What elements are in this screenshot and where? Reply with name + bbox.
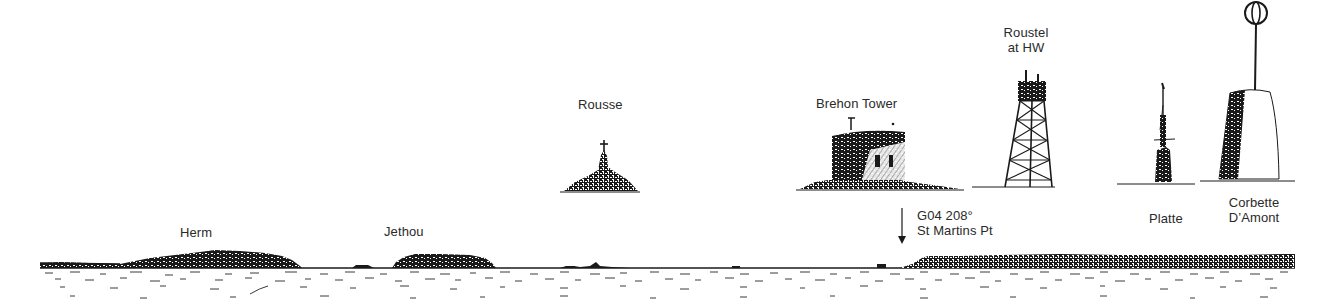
- label-roustel-line1: Roustel: [998, 25, 1054, 40]
- platte-sketch: [1117, 83, 1195, 184]
- label-platte: Platte: [1149, 211, 1183, 226]
- label-corbette-line1: Corbette: [1220, 195, 1288, 210]
- sketch-artwork: [0, 0, 1325, 302]
- coastal-view-diagram: Herm Jethou Rousse Brehon Tower Roustel …: [0, 0, 1325, 302]
- roustel-tower-sketch: [972, 70, 1055, 187]
- st-martins-point-headland: [900, 254, 1295, 268]
- islet-shape: [352, 265, 374, 268]
- herm-island-shape: [40, 250, 302, 268]
- label-jethou: Jethou: [384, 224, 424, 239]
- label-corbette-line2: D’Amont: [1220, 210, 1288, 225]
- label-bearing-line1: G04 208°: [917, 208, 993, 223]
- label-herm: Herm: [180, 225, 212, 240]
- label-bearing-line2: St Martins Pt: [917, 223, 993, 238]
- bearing-arrow-icon: [898, 208, 906, 244]
- jethou-island-shape: [392, 254, 496, 268]
- label-bearing: G04 208° St Martins Pt: [917, 208, 993, 238]
- label-rousse: Rousse: [578, 97, 623, 112]
- label-roustel: Roustel at HW: [998, 25, 1054, 55]
- horizon-rocks: [560, 262, 886, 268]
- label-roustel-line2: at HW: [998, 40, 1054, 55]
- corbette-damont-sketch: [1200, 2, 1295, 181]
- label-corbette-damont: Corbette D’Amont: [1220, 195, 1288, 225]
- sea-surface: [45, 272, 1288, 298]
- brehon-tower-sketch: [796, 118, 964, 190]
- rousse-sketch: [560, 140, 640, 192]
- label-brehon-tower: Brehon Tower: [816, 96, 897, 111]
